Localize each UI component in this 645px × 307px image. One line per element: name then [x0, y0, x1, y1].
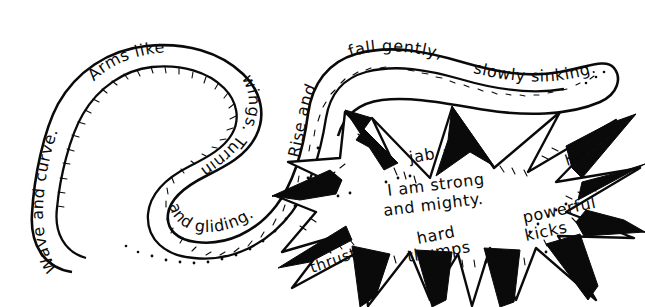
wave-word-segment-4: and gliding.	[165, 200, 257, 236]
starburst-group: jab hit powerful kicks hard thumps thrus…	[272, 106, 645, 307]
wave-textpath-6: fall gently,	[346, 36, 445, 63]
word-jab: jab	[407, 144, 437, 167]
wave-word-segment-6: fall gently,	[346, 36, 445, 63]
wave-textpath-5: Rise and	[284, 81, 320, 160]
wave-word-segment-5: Rise and	[284, 81, 320, 160]
wave-textpath-4: and gliding.	[165, 200, 257, 236]
wave-textpath-2: Arms like	[84, 37, 166, 84]
artwork-canvas: Wave and curve. Arms like wings. Turning…	[0, 0, 645, 307]
wave-textpath-7: slowly sinking.	[472, 58, 598, 86]
wave-word-segment-7: slowly sinking.	[472, 58, 598, 86]
artwork-svg: Wave and curve. Arms like wings. Turning…	[0, 0, 645, 307]
wave-word-segment-2: Arms like	[84, 37, 166, 84]
